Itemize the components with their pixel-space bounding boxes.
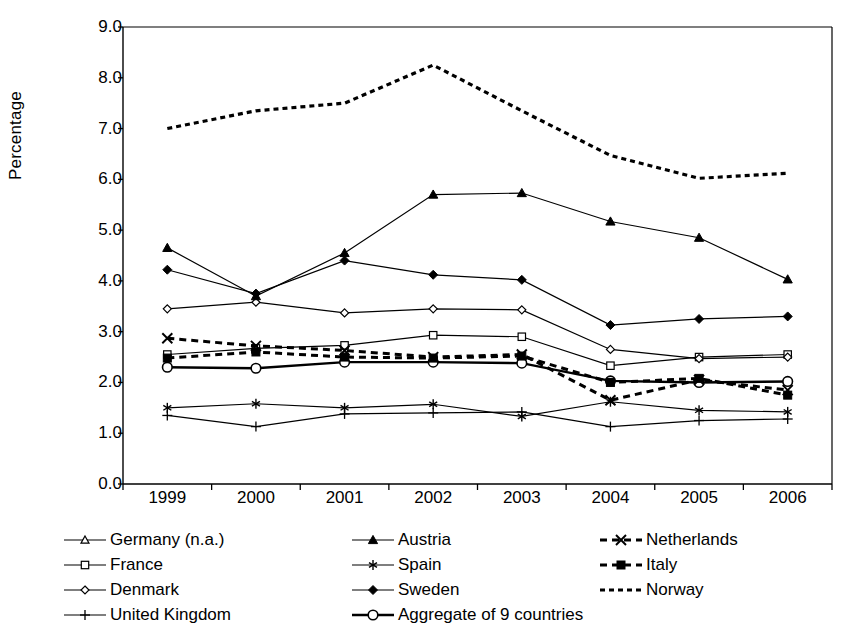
legend-item-austria[interactable]: Austria bbox=[350, 527, 451, 552]
series-layer bbox=[162, 65, 792, 432]
legend-item-denmark[interactable]: Denmark bbox=[62, 577, 179, 602]
legend-key-diamond-open-solid bbox=[62, 581, 108, 599]
legend-key-dotted bbox=[598, 581, 644, 599]
legend-key-circle-open-thick bbox=[350, 606, 396, 624]
x-tick-label: 2000 bbox=[237, 488, 275, 508]
series-norway bbox=[167, 65, 787, 178]
legend-label: Spain bbox=[398, 556, 441, 574]
x-tick-label: 2006 bbox=[769, 488, 807, 508]
legend-label: France bbox=[110, 556, 163, 574]
legend-item-netherlands[interactable]: Netherlands bbox=[598, 527, 738, 552]
legend-key-triangle-filled-solid bbox=[350, 531, 396, 549]
y-axis-ticks bbox=[118, 27, 123, 484]
legend-item-aggregate-of-9-countries[interactable]: Aggregate of 9 countries bbox=[350, 602, 583, 627]
x-tick-label: 2003 bbox=[503, 488, 541, 508]
legend-item-spain[interactable]: Spain bbox=[350, 552, 441, 577]
x-tick-label: 2004 bbox=[592, 488, 630, 508]
legend-key-x-cross-dashed bbox=[598, 531, 644, 549]
x-axis-tick-labels: 19992000200120022003200420052006 bbox=[0, 488, 859, 518]
legend-label: Netherlands bbox=[646, 531, 738, 549]
legend-key-diamond-filled-solid bbox=[350, 581, 396, 599]
legend-item-italy[interactable]: Italy bbox=[598, 552, 677, 577]
legend-item-germany-n-a[interactable]: Germany (n.a.) bbox=[62, 527, 224, 552]
legend-key-square-open-solid bbox=[62, 556, 108, 574]
legend-label: Austria bbox=[398, 531, 451, 549]
legend-row: DenmarkSwedenNorway bbox=[62, 577, 852, 602]
x-tick-label: 2001 bbox=[326, 488, 364, 508]
legend-item-sweden[interactable]: Sweden bbox=[350, 577, 459, 602]
legend-key-asterisk-solid bbox=[350, 556, 396, 574]
legend-key-plus-solid bbox=[62, 606, 108, 624]
legend-label: Denmark bbox=[110, 581, 179, 599]
legend-item-united-kingdom[interactable]: United Kingdom bbox=[62, 602, 231, 627]
axis-frame bbox=[123, 27, 832, 484]
x-tick-label: 2002 bbox=[414, 488, 452, 508]
x-tick-label: 2005 bbox=[680, 488, 718, 508]
legend-label: Aggregate of 9 countries bbox=[398, 606, 583, 624]
legend-label: United Kingdom bbox=[110, 606, 231, 624]
legend-label: Italy bbox=[646, 556, 677, 574]
chart-container: Percentage 0.01.02.03.04.05.06.07.08.09.… bbox=[0, 0, 859, 639]
legend-label: Norway bbox=[646, 581, 704, 599]
legend-item-norway[interactable]: Norway bbox=[598, 577, 704, 602]
legend-key-square-filled-dashed bbox=[598, 556, 644, 574]
legend-row: Germany (n.a.)AustriaNetherlands bbox=[62, 527, 852, 552]
chart-legend: Germany (n.a.)AustriaNetherlandsFranceSp… bbox=[62, 527, 852, 631]
legend-label: Germany (n.a.) bbox=[110, 531, 224, 549]
legend-row: FranceSpainItaly bbox=[62, 552, 852, 577]
legend-row: United KingdomAggregate of 9 countries bbox=[62, 602, 852, 627]
legend-key-triangle-open-solid bbox=[62, 531, 108, 549]
series-sweden bbox=[163, 256, 792, 329]
x-tick-label: 1999 bbox=[148, 488, 186, 508]
legend-item-france[interactable]: France bbox=[62, 552, 163, 577]
legend-label: Sweden bbox=[398, 581, 459, 599]
series-spain bbox=[163, 397, 791, 422]
series-austria bbox=[163, 188, 793, 299]
